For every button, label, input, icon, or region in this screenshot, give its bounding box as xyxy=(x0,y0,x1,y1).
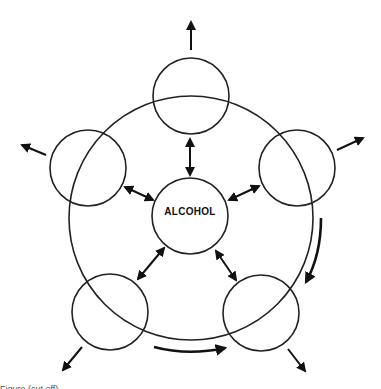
figure-caption: Figure (cut off) xyxy=(0,382,381,389)
outer-circle-right xyxy=(259,130,335,206)
outward-arrow-right-icon xyxy=(337,138,363,150)
outer-circle-left xyxy=(50,130,126,206)
outward-arrow-bottom-right-icon xyxy=(288,349,305,371)
double-arrow-bottom-left-icon xyxy=(138,248,164,279)
alcohol-cycle-diagram xyxy=(0,0,381,389)
outward-arrow-left-icon xyxy=(22,145,46,155)
double-arrow-right-icon xyxy=(229,186,259,200)
outer-ring xyxy=(69,96,313,340)
outward-arrow-bottom-left-icon xyxy=(63,347,82,370)
double-arrow-bottom-right-icon xyxy=(216,251,236,280)
outer-circle-bottom-right xyxy=(223,275,299,351)
double-arrow-left-icon xyxy=(125,187,153,200)
outer-circle-bottom-left xyxy=(72,274,148,350)
curved-flow-arrow-bottom-icon xyxy=(154,347,225,352)
center-label: ALCOHOL xyxy=(150,206,230,217)
